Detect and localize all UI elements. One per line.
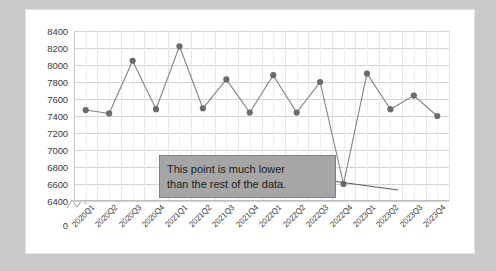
x-tick-label: 2021Q2 bbox=[187, 203, 213, 229]
y-tick-label: 7600 bbox=[47, 94, 68, 105]
data-point-marker[interactable] bbox=[106, 110, 112, 116]
x-tick-label: 2022Q3 bbox=[304, 203, 330, 229]
x-tick-label: 2023Q2 bbox=[375, 203, 401, 229]
y-tick-label: 6400 bbox=[47, 196, 68, 207]
x-tick-label: 2021Q1 bbox=[164, 203, 190, 229]
annotation-callout[interactable]: This point is much lower than the rest o… bbox=[159, 155, 336, 198]
data-point-marker[interactable] bbox=[153, 106, 159, 112]
data-point-marker[interactable] bbox=[434, 113, 440, 119]
data-point-marker[interactable] bbox=[129, 58, 135, 64]
x-tick-label: 2021Q4 bbox=[234, 203, 260, 229]
chart-screenshot: 8400820080007800760074007200700068006600… bbox=[0, 0, 496, 271]
x-tick-label: 2021Q3 bbox=[211, 203, 237, 229]
y-tick-label: 7200 bbox=[47, 128, 68, 139]
y-tick-label: 7000 bbox=[47, 145, 68, 156]
x-tick-label: 2020Q3 bbox=[117, 203, 143, 229]
y-tick-label: 8000 bbox=[47, 60, 68, 71]
x-tick-label: 2023Q1 bbox=[351, 203, 377, 229]
y-tick-label: 7800 bbox=[47, 77, 68, 88]
data-point-marker[interactable] bbox=[247, 110, 253, 116]
annotation-leader-line bbox=[332, 178, 400, 192]
data-point-marker[interactable] bbox=[200, 105, 206, 111]
y-tick-label: 6600 bbox=[47, 179, 68, 190]
data-point-marker[interactable] bbox=[83, 107, 89, 113]
data-point-marker[interactable] bbox=[294, 110, 300, 116]
y-tick-label: 6800 bbox=[47, 162, 68, 173]
data-point-marker[interactable] bbox=[411, 93, 417, 99]
y-axis-labels: 8400820080007800760074007200700068006600… bbox=[26, 31, 72, 201]
annotation-text-line-1: This point is much lower bbox=[167, 162, 328, 177]
chart-card: 8400820080007800760074007200700068006600… bbox=[26, 10, 474, 253]
y-tick-label: 7400 bbox=[47, 111, 68, 122]
data-point-marker[interactable] bbox=[176, 43, 182, 49]
data-point-marker[interactable] bbox=[387, 106, 393, 112]
gridline-horizontal bbox=[74, 201, 449, 202]
x-tick-label: 2023Q4 bbox=[422, 203, 448, 229]
gridline-vertical bbox=[449, 31, 450, 201]
data-point-marker[interactable] bbox=[364, 70, 370, 76]
x-tick-label: 2020Q1 bbox=[70, 203, 96, 229]
data-point-marker[interactable] bbox=[270, 72, 276, 78]
x-tick-label: 2022Q4 bbox=[328, 203, 354, 229]
annotation-text-line-2: than the rest of the data. bbox=[167, 177, 328, 192]
y-tick-label-zero: 0 bbox=[63, 220, 68, 231]
x-tick-label: 2022Q1 bbox=[258, 203, 284, 229]
x-axis-labels: 2020Q12020Q22020Q32020Q42021Q12021Q22021… bbox=[74, 203, 449, 251]
data-point-marker[interactable] bbox=[223, 76, 229, 82]
x-tick-label: 2023Q3 bbox=[398, 203, 424, 229]
x-tick-label: 2020Q2 bbox=[93, 203, 119, 229]
data-point-marker[interactable] bbox=[317, 79, 323, 85]
x-tick-label: 2022Q2 bbox=[281, 203, 307, 229]
y-tick-label: 8400 bbox=[47, 26, 68, 37]
y-tick-label: 8200 bbox=[47, 43, 68, 54]
x-tick-label: 2020Q4 bbox=[140, 203, 166, 229]
